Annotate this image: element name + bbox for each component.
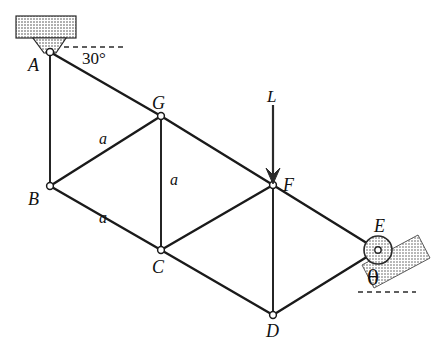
roller-circle <box>364 236 392 264</box>
node-label-F: F <box>283 176 294 194</box>
node-label-A: A <box>28 56 39 74</box>
dimension-label-bg: a <box>99 131 107 147</box>
node-label-C: C <box>152 258 164 276</box>
node-label-B: B <box>28 190 39 208</box>
load-arrow-L <box>266 105 280 184</box>
truss-diagram-canvas <box>0 0 447 353</box>
member-C-F <box>161 185 273 250</box>
angle-label-30deg: 30° <box>82 50 106 67</box>
node-label-E: E <box>374 217 385 235</box>
joint-C <box>158 247 165 254</box>
node-label-D: D <box>266 322 279 340</box>
member-D-E <box>273 250 378 315</box>
load-label-L: L <box>267 88 276 105</box>
member-C-D <box>161 250 273 315</box>
hatched-ceiling-block <box>16 16 76 38</box>
member-B-G <box>50 116 161 186</box>
angle-label-theta: θ <box>367 268 379 288</box>
dimension-label-bc: a <box>99 210 107 226</box>
joint-B <box>47 183 54 190</box>
dimension-label-gc: a <box>170 172 178 188</box>
joint-D <box>270 312 277 319</box>
joint-A <box>46 48 53 55</box>
node-label-G: G <box>152 94 165 112</box>
joint-G <box>158 113 165 120</box>
truss-members <box>50 52 378 315</box>
